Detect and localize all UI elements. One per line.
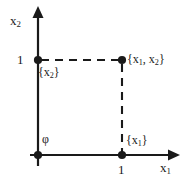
x-axis-label: x1 <box>160 161 171 174</box>
point-label-x1-x2-subscript-2: 2 <box>155 58 159 67</box>
point-label-x1-subscript: 1 <box>138 139 142 148</box>
point-label-x1-head: {x <box>126 133 138 147</box>
point-label-x1-x2-subscript-1: 1 <box>139 58 143 67</box>
point-label-x2-head: {x <box>38 65 50 79</box>
diagram-vector-layer <box>0 0 188 182</box>
point-x2 <box>34 56 42 64</box>
y-axis-label: x2 <box>10 14 21 27</box>
point-label-x1-x2: {x1, x2} <box>127 53 165 65</box>
point-label-x2: {x2} <box>38 66 60 78</box>
point-label-x1-x2-mid: , x <box>143 52 155 66</box>
x-axis-label-text: x <box>160 160 167 175</box>
point-label-x2-tail: } <box>54 65 60 79</box>
x-axis-label-subscript: 1 <box>167 166 171 176</box>
point-label-x1-x2-head: {x <box>127 52 139 66</box>
y-axis-label-text: x <box>10 13 17 28</box>
y-axis-label-subscript: 2 <box>17 19 21 29</box>
point-x1 <box>118 151 126 159</box>
point-label-x2-subscript: 2 <box>50 71 54 80</box>
x-axis-tick-label-1: 1 <box>118 163 125 176</box>
x-axis-arrowhead <box>168 150 180 161</box>
point-x1-x2 <box>118 56 126 64</box>
y-axis-arrowhead <box>33 6 44 18</box>
point-label-x1-x2-tail: } <box>159 52 165 66</box>
point-empty-set <box>34 151 42 159</box>
point-label-x1-tail: } <box>142 133 148 147</box>
y-axis-tick-label-1: 1 <box>17 53 24 66</box>
diagram-canvas: x2 x1 1 1 φ {x2} {x1, x2} {x1} <box>0 0 188 182</box>
point-label-empty-set: φ <box>42 133 49 145</box>
point-label-x1: {x1} <box>126 134 148 146</box>
